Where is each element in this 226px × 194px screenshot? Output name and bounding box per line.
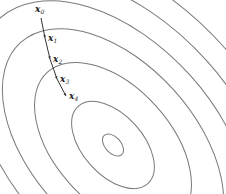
contour-ellipse-5: [0, 0, 226, 194]
point-label-x3: x3: [59, 74, 69, 85]
contour-ellipse-0: [98, 130, 127, 160]
contour-ellipse-3: [0, 0, 226, 194]
contour-diagram: x0x1x2x3x4: [0, 0, 226, 194]
path-segment-0: [41, 18, 45, 38]
contour-ellipse-6: [0, 0, 226, 194]
point-label-x4: x4: [68, 91, 78, 102]
contour-lines: [0, 0, 226, 194]
contour-ellipse-2: [4, 33, 221, 194]
arrow-head-icon: [55, 76, 57, 79]
contour-ellipse-4: [0, 0, 226, 194]
point-label-x0: x0: [34, 4, 44, 15]
point-label-x2: x2: [52, 54, 62, 65]
point-label-x1: x1: [47, 33, 57, 44]
